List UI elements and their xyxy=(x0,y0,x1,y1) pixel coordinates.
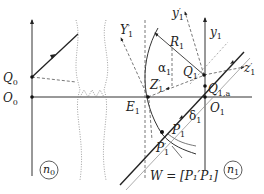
incident-ray xyxy=(32,34,78,77)
label-P1: P1 xyxy=(171,123,185,139)
wavy-boundary-right xyxy=(103,20,107,180)
label-W-formula: W = [P₁′P₁] xyxy=(150,169,218,183)
label-R1: R1 xyxy=(169,35,184,51)
Q1-point xyxy=(202,73,206,77)
label-y1p: y1′ xyxy=(171,6,184,22)
P1-point xyxy=(160,130,164,134)
q0-dashed xyxy=(32,77,76,82)
label-n1: n1 xyxy=(227,163,239,177)
diagram-svg: Q0 O0 Y1′ y1′ y1 R1 α1 Z1′ Q1 z1′ Q1,a E… xyxy=(0,0,264,194)
O0-point xyxy=(30,95,34,99)
Q0-point xyxy=(30,75,34,79)
label-Q0: Q0 xyxy=(3,71,18,87)
label-Y1p: Y1′ xyxy=(120,23,133,39)
label-O0: O0 xyxy=(3,91,18,107)
label-O1: O1 xyxy=(210,101,225,117)
Q1a-point xyxy=(203,84,207,88)
O1-point xyxy=(203,95,207,99)
label-E1: E1 xyxy=(125,100,140,116)
wavy-boundary-left xyxy=(76,20,82,180)
label-P1p: P1′ xyxy=(155,141,169,157)
label-z1p: z1′ xyxy=(243,61,255,77)
label-Q1a: Q1,a xyxy=(208,82,230,98)
label-y1: y1 xyxy=(209,25,222,41)
Y1p-axis xyxy=(121,38,148,97)
label-Z1p: Z1′ xyxy=(149,78,163,94)
optics-diagram: Q0 O0 Y1′ y1′ y1 R1 α1 Z1′ Q1 z1′ Q1,a E… xyxy=(0,0,264,194)
E1-point xyxy=(146,95,150,99)
label-n0: n0 xyxy=(43,163,55,177)
zigzag-break xyxy=(80,90,104,97)
e1-dashed-vertical-2 xyxy=(149,100,152,140)
label-alpha1: α1 xyxy=(158,61,171,77)
